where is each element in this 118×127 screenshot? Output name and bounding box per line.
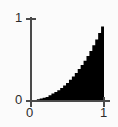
x-axis-line xyxy=(30,100,110,102)
x-axis-tick-label-0: 0 xyxy=(26,106,33,119)
area-path xyxy=(31,19,104,101)
plot-area xyxy=(31,19,104,101)
y-axis-line xyxy=(30,17,32,103)
y-axis-tick-label-1: 1 xyxy=(15,11,22,24)
y-axis-tick-label-0: 0 xyxy=(15,93,22,106)
y-axis-tick-1 xyxy=(26,18,36,20)
x-axis-tick-label-1: 1 xyxy=(100,106,107,119)
area-series-fill xyxy=(31,19,104,101)
chart-figure: 1 0 0 1 xyxy=(0,0,118,127)
